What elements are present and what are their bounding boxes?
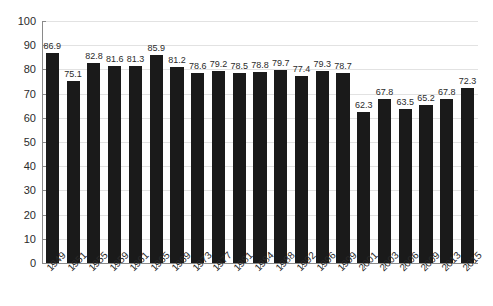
bar-value-label: 86.9 xyxy=(44,42,62,51)
bar-group: 67.8 xyxy=(436,21,457,263)
bar-value-label: 81.2 xyxy=(168,56,186,65)
bar-group: 77.4 xyxy=(291,21,312,263)
bar xyxy=(129,66,142,263)
bar-value-label: 65.2 xyxy=(417,94,435,103)
bar xyxy=(233,73,246,263)
bar-group: 75.1 xyxy=(63,21,84,263)
bar-group: 85.9 xyxy=(146,21,167,263)
y-tick-label-40: 40 xyxy=(0,161,36,172)
bar xyxy=(440,99,453,263)
bar-value-label: 63.5 xyxy=(397,98,415,107)
bar-value-label: 67.8 xyxy=(376,88,394,97)
bar xyxy=(378,99,391,263)
bar-group: 67.8 xyxy=(374,21,395,263)
bar xyxy=(108,66,121,263)
bar-group: 63.5 xyxy=(395,21,416,263)
bars-layer: 86.975.182.881.681.385.981.278.679.278.5… xyxy=(42,21,478,263)
bar-value-label: 78.7 xyxy=(334,62,352,71)
bar-value-label: 78.6 xyxy=(189,62,207,71)
bar xyxy=(191,73,204,263)
bar xyxy=(274,70,287,263)
bar xyxy=(253,72,266,263)
bar-group: 79.2 xyxy=(208,21,229,263)
bar-group: 82.8 xyxy=(84,21,105,263)
bar xyxy=(212,71,225,263)
bar-group: 78.7 xyxy=(333,21,354,263)
bar-value-label: 72.3 xyxy=(459,77,477,86)
bar-group: 78.6 xyxy=(187,21,208,263)
y-tick-label-0: 0 xyxy=(0,258,36,269)
bar-value-label: 78.5 xyxy=(230,62,248,71)
bar-value-label: 81.6 xyxy=(106,55,124,64)
y-tick-label-50: 50 xyxy=(0,137,36,148)
bar-value-label: 62.3 xyxy=(355,101,373,110)
y-tick-label-10: 10 xyxy=(0,234,36,245)
y-tick-label-30: 30 xyxy=(0,185,36,196)
bar-group: 79.3 xyxy=(312,21,333,263)
bar-value-label: 77.4 xyxy=(293,65,311,74)
x-axis-labels: 1949195119551959196119651969197319771981… xyxy=(42,266,478,306)
y-tick-label-90: 90 xyxy=(0,40,36,51)
bar-group: 86.9 xyxy=(42,21,63,263)
bar xyxy=(67,81,80,263)
bar-value-label: 79.3 xyxy=(314,60,332,69)
bar xyxy=(87,63,100,263)
bar-group: 65.2 xyxy=(416,21,437,263)
bar-group: 72.3 xyxy=(457,21,478,263)
bar-value-label: 79.7 xyxy=(272,59,290,68)
y-tick-label-80: 80 xyxy=(0,64,36,75)
bar-group: 78.8 xyxy=(250,21,271,263)
bar-value-label: 67.8 xyxy=(438,88,456,97)
bar xyxy=(336,73,349,263)
bar xyxy=(170,67,183,264)
bar xyxy=(461,88,474,263)
bar-chart: 0102030405060708090100 86.975.182.881.68… xyxy=(0,0,493,306)
y-tick-label-70: 70 xyxy=(0,89,36,100)
bar-value-label: 85.9 xyxy=(147,44,165,53)
bar-value-label: 75.1 xyxy=(64,70,82,79)
y-tick-label-20: 20 xyxy=(0,210,36,221)
bar xyxy=(316,71,329,263)
bar-group: 62.3 xyxy=(353,21,374,263)
bar xyxy=(399,109,412,263)
bar xyxy=(46,53,59,263)
bar-value-label: 78.8 xyxy=(251,61,269,70)
bar-group: 78.5 xyxy=(229,21,250,263)
bar-group: 81.3 xyxy=(125,21,146,263)
y-tick-label-100: 100 xyxy=(0,16,36,27)
bar xyxy=(295,76,308,263)
bar-value-label: 82.8 xyxy=(85,52,103,61)
bar xyxy=(419,105,432,263)
bar-value-label: 81.3 xyxy=(127,55,145,64)
bar-group: 81.2 xyxy=(167,21,188,263)
bar-group: 81.6 xyxy=(104,21,125,263)
bar-group: 79.7 xyxy=(270,21,291,263)
bar xyxy=(150,55,163,263)
y-tick-label-60: 60 xyxy=(0,113,36,124)
bar-value-label: 79.2 xyxy=(210,60,228,69)
bar xyxy=(357,112,370,263)
